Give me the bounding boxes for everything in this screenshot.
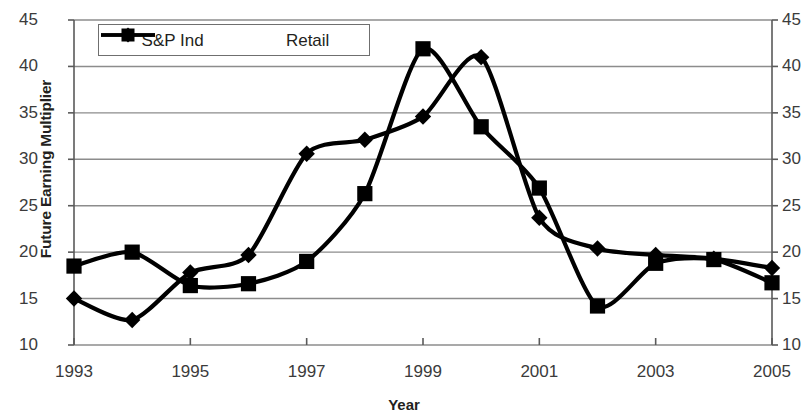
data-point-marker [706, 252, 721, 267]
y-axis-tick-label: 20 [782, 243, 801, 260]
x-axis-tick-label: 1995 [150, 363, 230, 380]
y-axis-tick-label: 30 [19, 150, 38, 167]
y-axis-tick-label: 15 [782, 290, 801, 307]
data-point-marker [648, 256, 663, 271]
data-point-marker [299, 254, 314, 269]
data-point-marker [474, 119, 489, 134]
x-axis-tick-label: 1993 [34, 363, 114, 380]
data-point-marker [589, 240, 605, 256]
data-point-marker [124, 312, 140, 328]
y-axis-tick-label: 35 [782, 104, 801, 121]
legend-label-retail: Retail [283, 32, 329, 49]
data-point-marker [66, 258, 81, 273]
data-point-marker [532, 180, 547, 195]
x-axis-tick-label: 2003 [616, 363, 696, 380]
y-axis-tick-label: 10 [782, 336, 801, 353]
y-axis-tick-label: 40 [782, 57, 801, 74]
chart-legend: S&P Ind Retail [98, 24, 370, 56]
data-point-marker [125, 245, 140, 260]
data-point-marker [357, 186, 372, 201]
y-axis-tick-label: 30 [782, 150, 801, 167]
data-point-marker [241, 276, 256, 291]
y-axis-tick-label: 25 [782, 197, 801, 214]
x-axis-tick-label: 1999 [383, 363, 463, 380]
y-axis-tick-label: 25 [19, 197, 38, 214]
series-line-retail [74, 48, 772, 307]
y-axis-tick-label: 40 [19, 57, 38, 74]
y-axis-tick-label: 20 [19, 243, 38, 260]
data-point-marker [764, 260, 780, 276]
data-point-marker [66, 290, 82, 306]
data-point-marker [357, 132, 373, 148]
data-point-marker [764, 275, 779, 290]
x-axis-tick-label: 2005 [732, 363, 808, 380]
x-axis-tick-label: 1997 [267, 363, 347, 380]
y-axis-tick-label: 45 [782, 11, 801, 28]
x-axis-tick-label: 2001 [499, 363, 579, 380]
data-point-marker [415, 41, 430, 56]
legend-marker-square-icon [99, 25, 157, 45]
y-axis-tick-label: 15 [19, 290, 38, 307]
legend-entry-retail: Retail [283, 32, 329, 49]
data-point-marker [183, 278, 198, 293]
chart-container: Future Earning Multiplier Year S&P Ind R… [0, 0, 808, 420]
y-axis-tick-label: 35 [19, 104, 38, 121]
y-axis-tick-label: 10 [19, 336, 38, 353]
data-point-marker [590, 298, 605, 313]
y-axis-tick-label: 45 [19, 11, 38, 28]
plot-area [0, 0, 808, 420]
